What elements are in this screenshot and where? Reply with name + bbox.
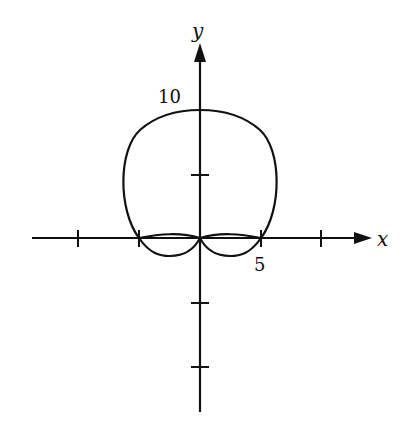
label-10: 10 xyxy=(158,86,181,107)
y-axis-label: y xyxy=(191,19,204,43)
polar-curve-lower-right-loop xyxy=(200,238,261,256)
polar-plot: y x 10 5 xyxy=(0,0,413,444)
x-axis-label: x xyxy=(377,227,388,251)
label-5: 5 xyxy=(254,254,265,275)
y-axis-arrow-icon xyxy=(194,43,206,62)
x-axis-arrow-icon xyxy=(354,232,372,244)
polar-curve-lower-left-loop xyxy=(139,238,200,256)
